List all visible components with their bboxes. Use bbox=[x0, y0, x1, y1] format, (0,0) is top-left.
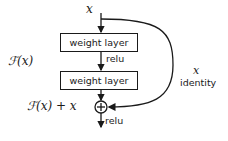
weight-layer-1: weight layer bbox=[60, 33, 138, 52]
relu-label-1: relu bbox=[106, 53, 124, 64]
input-x-label: x bbox=[86, 2, 93, 16]
identity-label: identity bbox=[180, 77, 216, 88]
weight-layer-2: weight layer bbox=[60, 71, 138, 90]
skip-x-label: x bbox=[193, 64, 199, 77]
residual-function-label: ℱ(x) bbox=[8, 54, 33, 68]
sum-label: ℱ(x) + x bbox=[27, 99, 77, 113]
relu-label-2: relu bbox=[105, 115, 123, 126]
